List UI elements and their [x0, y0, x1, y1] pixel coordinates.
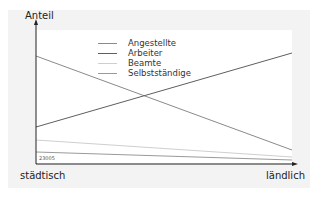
series-line-selbststaendige [36, 152, 292, 160]
series-line-beamte [36, 140, 292, 157]
legend-label: Beamte [128, 58, 161, 68]
x-axis-arrow-icon [292, 162, 298, 166]
legend-item-selbststaendige: Selbstständige [98, 68, 191, 78]
y-axis-label: Anteil [25, 10, 54, 21]
legend-label: Selbstständige [128, 68, 191, 78]
legend-item-angestellte: Angestellte [98, 38, 191, 48]
figure-id-tag: 23005 [39, 155, 55, 161]
legend-item-arbeiter: Arbeiter [98, 48, 191, 58]
x-axis-label-right: ländlich [266, 170, 305, 181]
legend-label: Angestellte [128, 38, 176, 48]
legend: Angestellte Arbeiter Beamte Selbstständi… [98, 38, 191, 78]
x-axis-label-left: städtisch [20, 170, 65, 181]
legend-item-beamte: Beamte [98, 58, 191, 68]
legend-swatch [98, 73, 117, 74]
legend-swatch [98, 53, 117, 54]
legend-swatch [98, 43, 117, 44]
legend-label: Arbeiter [128, 48, 162, 58]
legend-swatch [98, 63, 117, 64]
